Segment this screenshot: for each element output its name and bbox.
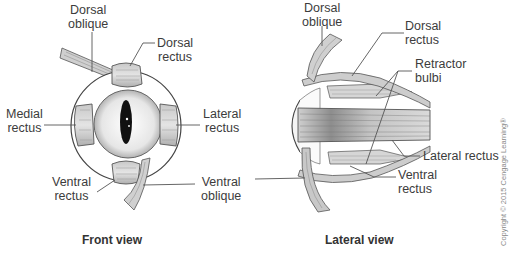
caption-front-view: Front view: [82, 233, 142, 247]
label-front-medial-rectus: Medial rectus: [6, 107, 43, 135]
label-lateral-retractor-bulbi: Retractor bulbi: [415, 57, 466, 85]
label-lateral-dorsal-oblique: Dorsal oblique: [302, 1, 342, 29]
label-front-lateral-rectus: Lateral rectus: [203, 107, 241, 135]
label-front-ventral-oblique: Ventral oblique: [201, 175, 241, 203]
label-front-dorsal-rectus: Dorsal rectus: [157, 36, 193, 64]
label-lateral-dorsal-rectus: Dorsal rectus: [405, 19, 441, 47]
label-lateral-ventral-rectus: Ventral rectus: [398, 168, 437, 196]
copyright-notice: Copyright © 2015 Cengage Learning®: [499, 118, 508, 246]
label-front-ventral-rectus: Ventral rectus: [52, 175, 91, 203]
caption-lateral-view: Lateral view: [325, 233, 394, 247]
label-lateral-lateral-rectus: Lateral rectus: [423, 149, 499, 163]
label-front-dorsal-oblique: Dorsal oblique: [68, 3, 108, 31]
